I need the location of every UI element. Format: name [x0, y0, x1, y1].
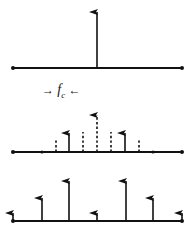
spectrum-figure: → fc ←	[0, 0, 192, 240]
spectrum-svg	[0, 0, 192, 240]
modulated-spectrum-with-envelope	[11, 115, 184, 154]
left-arrow-icon: →	[42, 83, 54, 97]
fc-subscript: c	[61, 90, 65, 100]
axis-endpoint-dot	[11, 150, 15, 154]
right-arrow-icon: ←	[68, 83, 80, 97]
axis-endpoint-dot	[180, 150, 184, 154]
baseband-impulse-spectrum	[11, 12, 184, 70]
axis-tick-dot	[40, 150, 43, 153]
axis-endpoint-dot	[11, 66, 15, 70]
panel-group	[11, 12, 184, 223]
sampled-impulse-spectrum	[11, 181, 184, 223]
axis-tick-dot	[151, 150, 154, 153]
fc-label: → fc ←	[42, 82, 80, 100]
axis-endpoint-dot	[180, 66, 184, 70]
